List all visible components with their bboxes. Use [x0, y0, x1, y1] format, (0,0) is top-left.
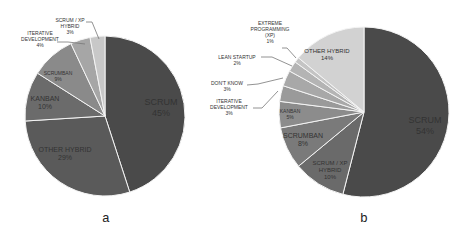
slice-label: DON'T KNOW3% [211, 80, 243, 92]
slice-label: LEAN STARTUP2% [218, 54, 256, 66]
pie-charts: SCRUM45%OTHER HYBRID29%KANBAN10%SCRUMBAN… [0, 0, 462, 240]
leader-line [282, 48, 296, 58]
caption-a: a [102, 211, 110, 226]
slice-label: ITERATIVEDEVELOPMENT4% [21, 30, 59, 48]
caption-b: b [360, 211, 368, 226]
pie-chart-b: SCRUM54%SCRUM / XPHYBRID10%SCRUMBAN8%KAN… [210, 20, 449, 197]
leader-line [253, 91, 278, 108]
slice-label: ITERATIVEDEVELOPMENT3% [210, 98, 248, 116]
pie-chart-a: SCRUM45%OTHER HYBRID29%KANBAN10%SCRUMBAN… [21, 17, 185, 196]
leader-line [247, 78, 283, 85]
leader-line [261, 57, 292, 66]
slice-label: SCRUM / XPHYBRID3% [55, 17, 85, 35]
slice-label: EXTREMEPROGRAMMING(XP)1% [251, 20, 290, 44]
